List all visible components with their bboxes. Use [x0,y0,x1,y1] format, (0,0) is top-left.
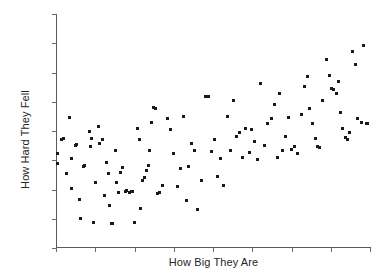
data-point [185,199,188,202]
data-point [311,122,314,125]
data-point [108,204,111,207]
data-point [139,207,142,210]
data-point [337,80,340,83]
x-axis-tick [135,248,136,252]
data-point [182,115,185,118]
data-point [166,117,169,120]
data-point [219,157,222,160]
data-point [148,149,151,152]
x-axis-tick [370,248,371,252]
data-point [97,125,100,128]
x-axis-tick [252,248,253,252]
data-point [328,74,331,77]
data-point [68,116,71,119]
data-point [266,122,269,125]
data-point [244,127,247,130]
data-point [229,149,232,152]
data-point [65,172,68,175]
plot-area [56,14,370,247]
data-point [296,152,299,155]
data-point [356,117,359,120]
data-point [222,184,225,187]
data-point [147,164,150,167]
data-point [117,191,120,194]
data-point [79,217,82,220]
data-point [366,122,369,125]
data-point [238,131,241,134]
x-axis-tick [331,248,332,252]
data-point [136,127,139,130]
data-point [314,137,317,140]
data-point [362,44,365,47]
data-point [89,145,92,148]
data-point [111,222,114,225]
data-point [360,121,363,124]
data-point [179,167,182,170]
data-point [169,128,172,131]
data-point [138,138,141,141]
data-point [158,191,161,194]
y-axis-label: How Hard They Fell [18,0,32,279]
data-point [70,157,73,160]
data-point [88,130,91,133]
data-point [216,175,219,178]
data-point [103,194,106,197]
data-point [187,165,190,168]
x-axis-label: How Big They Are [56,255,371,269]
data-point [105,161,108,164]
data-point [308,107,311,110]
data-point [83,164,86,167]
x-axis-tick [56,248,57,252]
data-point [273,103,276,106]
x-axis-tick [292,248,293,252]
data-point [339,111,342,114]
data-point [56,152,59,155]
data-point [154,107,157,110]
scatter-plot-figure: How Hard They Fell How Big They Are [0,0,377,279]
data-point [232,99,235,102]
data-point [226,115,229,118]
data-point [90,137,93,140]
data-point [133,221,136,224]
data-point [172,152,175,155]
data-point [143,176,146,179]
data-point [62,137,65,140]
data-point [131,190,134,193]
data-point [210,150,213,153]
data-point [107,172,110,175]
data-point [78,198,81,201]
data-point [318,146,321,149]
data-point [161,184,164,187]
data-point [92,221,95,224]
data-point [75,143,78,146]
data-point [335,92,338,95]
data-point [193,149,196,152]
data-point [119,171,122,174]
data-point [354,63,357,66]
data-point [196,208,199,211]
data-point [200,179,203,182]
data-point [70,187,73,190]
data-point [256,158,259,161]
data-point [306,75,309,78]
data-point [94,181,97,184]
data-point [259,82,262,85]
data-point [114,149,117,152]
data-point [303,85,306,88]
x-axis-tick [95,248,96,252]
data-point [284,135,287,138]
data-point [346,138,349,141]
data-point [281,149,284,152]
x-axis-tick [213,248,214,252]
data-point [241,156,244,159]
data-point [250,128,253,131]
data-point [287,116,290,119]
data-point [145,169,148,172]
data-point [348,131,351,134]
data-point [150,121,153,124]
data-point [213,138,216,141]
data-point [207,95,210,98]
data-point [253,140,256,143]
data-point [98,142,101,145]
data-point [321,99,324,102]
